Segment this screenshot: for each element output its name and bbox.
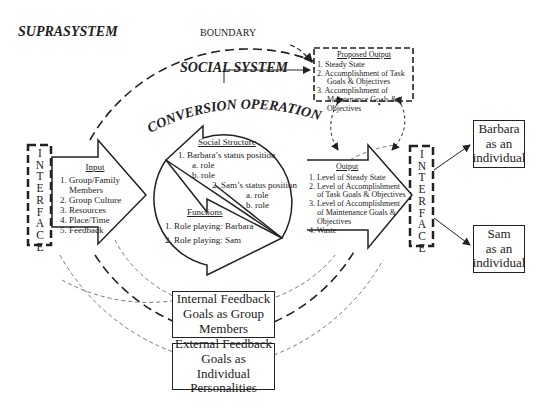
internal-feedback-loop-inner-right [276, 255, 335, 297]
internal-feedback-box: Internal Feedback Goals as Group Members [172, 291, 275, 338]
input-item: 5. Feedback [60, 225, 130, 235]
social-structure-item: 1. Barbara’s status position [168, 150, 303, 160]
input-title: Input [60, 162, 130, 172]
functions-item: 1. Role playing: Barbara [165, 221, 253, 231]
social-structure-title: Social Structure [168, 137, 303, 147]
external-feedback-loop [60, 255, 182, 355]
sam-individual-box: Sam as an individual [473, 225, 525, 273]
barbara-individual-box: Barbara as an individual [473, 120, 525, 168]
arrow-to-barbara [434, 145, 470, 170]
social-structure-item: a. role [168, 190, 303, 200]
arrow-to-sam [434, 218, 470, 245]
input-item: 4. Place/Time [60, 215, 130, 225]
input-item: 3. Resources [60, 205, 130, 215]
social-system-label: SOCIAL SYSTEM [180, 61, 288, 76]
internal-feedback-loop-left [62, 280, 178, 302]
social-structure-text: Social Structure 1. Barbara’s status pos… [168, 137, 303, 211]
functions-item: 2. Role playing: Sam [165, 235, 253, 245]
boundary-circle-lower-right [274, 250, 355, 322]
input-item: 2. Group Culture [60, 195, 130, 205]
external-feedback-loop-right [274, 260, 383, 355]
boundary-circle-lower-left [95, 255, 175, 322]
input-item: 1. Group/Family [60, 175, 130, 185]
output-title: Output [309, 163, 406, 172]
suprasystem-label: SUPRASYSTEM [18, 25, 118, 40]
external-feedback-box: External Feedback Goals as Individual Pe… [172, 343, 275, 390]
functions-text: Functions 1. Role playing: Barbara 2. Ro… [165, 207, 253, 245]
input-item: Members [60, 185, 130, 195]
social-structure-item: a. role [168, 160, 303, 170]
interface-left-label: INT ERF ACE [33, 148, 47, 253]
output-item: 4. Waste [309, 227, 406, 236]
social-structure-item: 2. Sam’s status position [168, 180, 303, 190]
interface-right-label: INT ERF ACE [415, 149, 429, 254]
boundary-label: BOUNDARY [200, 28, 256, 39]
functions-title: Functions [165, 207, 253, 217]
input-text: Input 1. Group/Family Members 2. Group C… [60, 162, 130, 236]
social-structure-item: b. role [168, 170, 303, 180]
proposed-output-text: Proposed Output 1. Steady State 2. Accom… [317, 51, 405, 114]
proposed-output-title: Proposed Output [317, 51, 405, 60]
proposed-output-item: Objectives [317, 105, 405, 114]
output-text: Output 1. Level of Steady State 2. Level… [309, 163, 406, 235]
